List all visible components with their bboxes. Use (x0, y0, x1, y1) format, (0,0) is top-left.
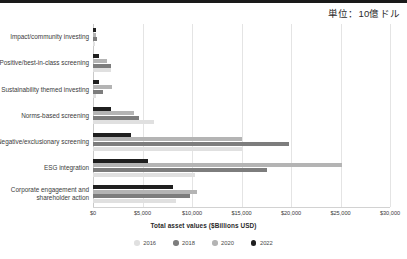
top-black-strip (0, 0, 407, 3)
x-axis-title: Total asset values ($Billions USD) (0, 222, 407, 229)
legend-item-2020[interactable]: 2020 (212, 240, 234, 246)
bar-2020[interactable] (93, 111, 134, 115)
bar-group (93, 76, 390, 102)
category-label: Sustainability themed investing (0, 86, 89, 94)
legend-swatch-icon (212, 240, 218, 246)
chart-plot-area (93, 24, 390, 207)
bar-2018[interactable] (93, 194, 190, 198)
bar-2016[interactable] (93, 147, 242, 151)
category-label: ESG integration (0, 164, 89, 172)
bar-2018[interactable] (93, 90, 103, 94)
category-label: Negative/exclusionary screening (0, 138, 89, 146)
legend-item-2022[interactable]: 2022 (251, 240, 273, 246)
bar-2020[interactable] (93, 163, 342, 167)
bar-2016[interactable] (93, 94, 96, 98)
x-tick-label: $10,000 (182, 210, 202, 216)
x-tick-label: $5,000 (134, 210, 151, 216)
legend-label: 2018 (182, 240, 195, 246)
bar-2018[interactable] (93, 37, 97, 41)
legend-swatch-icon (134, 240, 140, 246)
bar-2018[interactable] (93, 142, 289, 146)
bar-2016[interactable] (93, 68, 111, 72)
x-tick-label: $15,000 (231, 210, 251, 216)
bar-2020[interactable] (93, 33, 96, 37)
x-tick-label: $25,000 (330, 210, 350, 216)
bar-2016[interactable] (93, 120, 154, 124)
category-label: Positive/best-in-class screening (0, 59, 89, 67)
bar-2020[interactable] (93, 190, 197, 194)
bar-2022[interactable] (93, 185, 173, 189)
bar-2018[interactable] (93, 116, 139, 120)
bar-2018[interactable] (93, 64, 111, 68)
x-tick-label: $0 (90, 210, 96, 216)
bar-2020[interactable] (93, 85, 112, 89)
bar-2022[interactable] (93, 54, 99, 58)
bar-2016[interactable] (93, 42, 95, 46)
category-label: Norms-based screening (0, 112, 89, 120)
x-tick-label: $20,000 (281, 210, 301, 216)
bar-2020[interactable] (93, 59, 107, 63)
bar-2016[interactable] (93, 173, 195, 177)
x-tick-label: $30,000 (380, 210, 400, 216)
bar-2022[interactable] (93, 80, 99, 84)
bar-2022[interactable] (93, 107, 111, 111)
bar-group (93, 24, 390, 50)
unit-note: 単位：10億ドル (328, 6, 400, 20)
legend-label: 2020 (221, 240, 234, 246)
legend-swatch-icon (173, 240, 179, 246)
legend-item-2016[interactable]: 2016 (134, 240, 156, 246)
chart-legend: 2016201820202022 (0, 240, 407, 246)
x-axis-baseline (93, 207, 390, 208)
bar-group (93, 155, 390, 181)
legend-label: 2022 (260, 240, 273, 246)
bar-2022[interactable] (93, 159, 148, 163)
bar-group (93, 129, 390, 155)
bar-group (93, 181, 390, 207)
category-label: Corporate engagement and shareholder act… (0, 186, 89, 201)
bar-2016[interactable] (93, 199, 176, 203)
bar-group (93, 50, 390, 76)
legend-swatch-icon (251, 240, 257, 246)
legend-item-2018[interactable]: 2018 (173, 240, 195, 246)
gridline-30000 (390, 24, 391, 207)
bar-group (93, 102, 390, 128)
legend-label: 2016 (143, 240, 156, 246)
category-label: Impact/community investing (0, 33, 89, 41)
bar-2022[interactable] (93, 28, 96, 32)
bar-2018[interactable] (93, 168, 267, 172)
bar-2020[interactable] (93, 137, 242, 141)
bar-2022[interactable] (93, 133, 131, 137)
